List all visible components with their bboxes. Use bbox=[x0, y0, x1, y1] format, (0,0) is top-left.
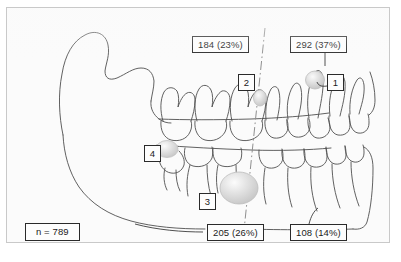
upper-tooth-6-crown bbox=[230, 121, 263, 141]
quadrant-label-upper-posterior: 184 (23%) bbox=[192, 36, 249, 53]
lower-tooth-2-root bbox=[332, 164, 340, 208]
upper-tooth-4-crown bbox=[287, 119, 310, 137]
jaw-outline-path bbox=[59, 32, 154, 135]
upper-tooth-7 bbox=[195, 85, 230, 121]
lesion-site-3-shape bbox=[220, 172, 258, 204]
maxilla-contour-path bbox=[369, 72, 375, 115]
upper-alveolar-line bbox=[159, 113, 329, 120]
upper-tooth-4 bbox=[287, 83, 301, 119]
lower-tooth-3-canine-crown bbox=[304, 148, 327, 167]
upper-tooth-2-crown bbox=[329, 116, 350, 135]
upper-tooth-5 bbox=[266, 87, 280, 120]
upper-tooth-1-crown bbox=[349, 114, 369, 133]
quadrant-label-lower-anterior: 108 (14%) bbox=[290, 224, 347, 241]
site-marker-1: 1 bbox=[327, 74, 344, 91]
upper-tooth-8 bbox=[161, 88, 195, 121]
site-marker-4: 4 bbox=[144, 145, 161, 162]
leader-line-label-lower-posterior bbox=[135, 224, 203, 232]
lesion-site-2-shape bbox=[254, 90, 267, 106]
lower-tooth-1-crown bbox=[345, 145, 364, 162]
midline-dash-dot bbox=[243, 28, 265, 240]
figure-root: 184 (23%) 292 (37%) 205 (26%) 108 (14%) … bbox=[0, 0, 401, 262]
lower-alveolar-line bbox=[157, 145, 331, 150]
quadrant-label-upper-anterior: 292 (37%) bbox=[290, 36, 347, 53]
site-marker-3: 3 bbox=[199, 193, 216, 210]
upper-tooth-3-canine-crown bbox=[308, 118, 330, 138]
lower-tooth-5-root bbox=[264, 168, 266, 204]
upper-tooth-1 bbox=[350, 78, 364, 114]
quadrant-label-lower-posterior: 205 (26%) bbox=[207, 224, 264, 241]
lower-tooth-4-root bbox=[288, 168, 292, 207]
lower-tooth-7-crown bbox=[184, 147, 212, 167]
lower-tooth-6-crown bbox=[213, 148, 242, 167]
mandible-lower-border-path bbox=[63, 135, 205, 229]
lower-tooth-7-roots bbox=[187, 165, 211, 196]
lower-tooth-1-root bbox=[351, 162, 359, 206]
upper-tooth-5-crown bbox=[265, 120, 288, 138]
upper-tooth-8-crown bbox=[161, 121, 192, 141]
upper-tooth-7-crown bbox=[195, 121, 227, 141]
site-marker-2: 2 bbox=[238, 74, 255, 91]
mandible-symphysis-path bbox=[353, 147, 373, 229]
total-sample-size-label: n = 789 bbox=[25, 223, 80, 241]
figure-panel: 184 (23%) 292 (37%) 205 (26%) 108 (14%) … bbox=[6, 7, 390, 243]
lower-tooth-2-crown bbox=[326, 146, 346, 164]
lower-tooth-3-canine-root bbox=[311, 167, 317, 211]
lower-tooth-5-crown bbox=[259, 149, 283, 168]
lower-tooth-4-crown bbox=[282, 149, 305, 168]
